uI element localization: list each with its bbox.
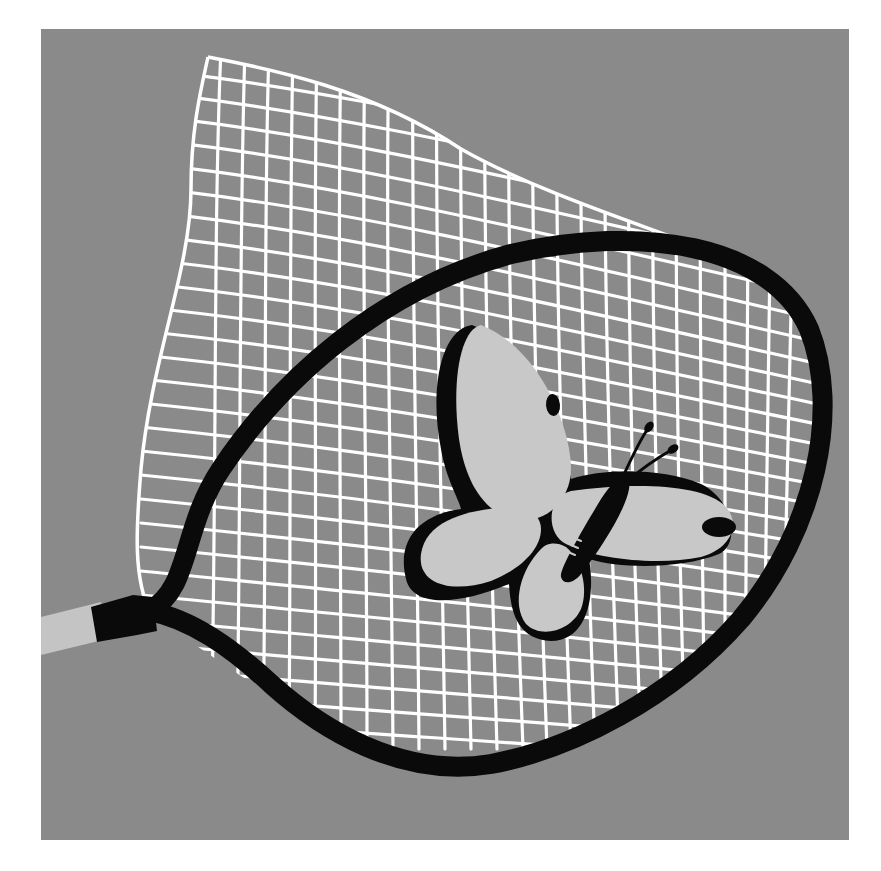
butterfly-net-illustration <box>41 29 849 840</box>
wing-spot-right <box>702 517 736 537</box>
illustration-panel: butterfly caught in a net <box>41 29 849 840</box>
illustration-canvas: butterfly caught in a net <box>0 0 881 871</box>
butterfly <box>404 325 736 641</box>
